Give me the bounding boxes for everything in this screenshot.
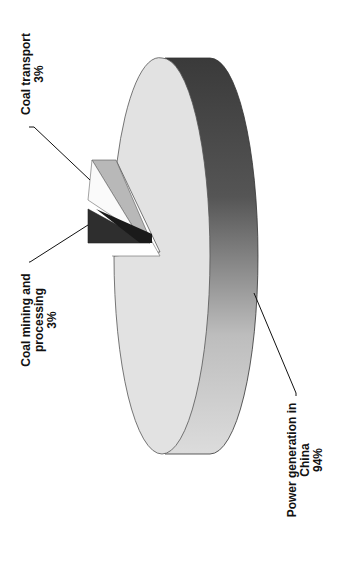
label-coal-mining: Coal mining and processing 3% [20, 264, 59, 376]
leader-line-power-generation [254, 293, 296, 396]
label-power-generation: Power generation in China 94% [286, 396, 325, 524]
label-coal-transport: Coal transport 3% [20, 24, 46, 124]
leader-line-coal-transport [29, 127, 90, 180]
leader-line-coal-mining [29, 225, 88, 262]
